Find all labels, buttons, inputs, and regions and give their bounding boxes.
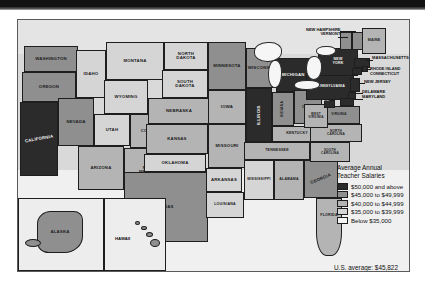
state-new-jersey[interactable] <box>350 78 360 92</box>
legend-label: $35,000 to $39,999 <box>351 208 404 215</box>
callout-rhode-island-connecticut: RHODE ISLAND CONNECTICUT <box>370 67 400 76</box>
state-utah[interactable]: UTAH <box>94 114 130 146</box>
state-oklahoma[interactable]: OKLAHOMA <box>144 154 206 172</box>
legend-row: $50,000 and above <box>337 183 408 190</box>
legend-swatch <box>337 191 348 198</box>
leader-ma <box>366 60 373 61</box>
leader-de <box>355 93 363 94</box>
alaska-aleutians <box>25 239 41 247</box>
state-arkansas[interactable]: ARKANSAS <box>206 168 242 192</box>
leader-nj <box>359 83 365 84</box>
legend-title: Average Annual Teacher Salaries <box>337 164 408 180</box>
state-arizona[interactable]: ARIZONA <box>78 146 124 190</box>
legend-row: Below $35,000 <box>337 217 408 224</box>
legend-swatch <box>337 200 348 207</box>
state-kansas[interactable]: KANSAS <box>146 124 208 154</box>
top-banner-shadow <box>0 7 425 10</box>
state-north-dakota[interactable]: NORTH DAKOTA <box>164 42 208 70</box>
leader-md <box>353 99 363 100</box>
state-louisiana[interactable]: LOUISIANA <box>206 192 244 218</box>
label-hawaii: HAWAII <box>115 237 130 242</box>
lake-huron <box>306 56 322 80</box>
state-tennessee[interactable]: TENNESSEE <box>244 142 310 160</box>
hawaii-island-1 <box>135 221 140 225</box>
lake-ontario <box>316 46 336 56</box>
lake-superior <box>254 42 282 62</box>
state-maryland[interactable] <box>340 98 354 106</box>
legend-label: $45,000 to $49,999 <box>351 191 404 198</box>
lake-erie <box>294 80 320 90</box>
state-missouri[interactable]: MISSOURI <box>208 124 246 168</box>
us-average-note: U.S. average: $45,822 <box>334 264 398 271</box>
state-iowa[interactable]: IOWA <box>208 90 246 124</box>
state-alabama[interactable]: ALABAMA <box>274 160 304 200</box>
callout-new-hampshire-vermont: NEW HAMPSHIRE VERMONT <box>306 28 340 36</box>
leader-nh <box>340 31 356 32</box>
map-figure: WASHINGTON OREGON CALIFORNIA NEVADA IDAH… <box>17 19 410 272</box>
leader-ri <box>366 69 371 70</box>
inset-hawaii[interactable]: HAWAII <box>104 198 166 271</box>
state-mississippi[interactable]: MISSISSIPPI <box>244 160 274 200</box>
state-california[interactable]: CALIFORNIA <box>20 102 58 176</box>
state-montana[interactable]: MONTANA <box>106 42 164 80</box>
hawaii-island-4 <box>150 239 160 247</box>
state-washington[interactable]: WASHINGTON <box>24 46 78 72</box>
state-wyoming[interactable]: WYOMING <box>104 80 148 114</box>
map-legend: Average Annual Teacher Salaries $50,000 … <box>337 164 408 225</box>
state-alaska[interactable]: ALASKA <box>37 211 83 253</box>
leader-vt <box>338 37 348 38</box>
hawaii-island-3 <box>146 232 153 237</box>
state-south-dakota[interactable]: SOUTH DAKOTA <box>162 70 208 98</box>
legend-swatch <box>337 217 348 224</box>
state-south-carolina[interactable]: SOUTH CAROLINA <box>310 142 350 162</box>
callout-delaware-maryland: DELAWARE MARYLAND <box>362 90 385 99</box>
screenshot-root: WASHINGTON OREGON CALIFORNIA NEVADA IDAH… <box>0 0 425 282</box>
state-connecticut[interactable] <box>352 68 362 75</box>
state-maine[interactable]: MAINE <box>362 28 386 54</box>
state-idaho[interactable]: IDAHO <box>76 50 106 98</box>
legend-label: Below $35,000 <box>351 217 391 224</box>
state-nebraska[interactable]: NEBRASKA <box>148 98 210 124</box>
state-illinois[interactable]: ILLINOIS <box>246 88 272 142</box>
callout-new-jersey: NEW JERSEY <box>364 80 391 84</box>
legend-swatch <box>337 183 348 190</box>
state-indiana[interactable]: INDIANA <box>272 92 294 126</box>
legend-row: $40,000 to $44,999 <box>337 200 408 207</box>
state-georgia[interactable]: GEORGIA <box>304 160 338 198</box>
legend-label: $50,000 and above <box>351 183 403 190</box>
legend-row: $35,000 to $39,999 <box>337 208 408 215</box>
legend-swatch <box>337 208 348 215</box>
legend-label: $40,000 to $44,999 <box>351 200 404 207</box>
callout-massachusetts: MASSACHUSETTS <box>372 56 409 60</box>
state-vermont[interactable] <box>340 32 352 50</box>
legend-row: $45,000 to $49,999 <box>337 191 408 198</box>
lake-michigan <box>268 60 282 88</box>
hawaii-island-2 <box>141 226 147 230</box>
state-nevada[interactable]: NEVADA <box>58 98 94 146</box>
state-minnesota[interactable]: MINNESOTA <box>208 42 246 90</box>
inset-alaska[interactable]: ALASKA <box>18 198 104 271</box>
